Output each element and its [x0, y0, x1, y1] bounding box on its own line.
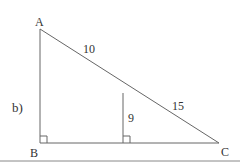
measure-10: 10 [83, 43, 95, 55]
vertex-label-b: B [30, 147, 38, 159]
vertex-label-c: C [221, 146, 229, 158]
triangle-abc [40, 29, 219, 143]
right-angle-marker-b [40, 136, 47, 143]
measure-15: 15 [172, 100, 184, 112]
right-angle-marker-inner [123, 136, 130, 143]
vertex-label-a: A [35, 16, 44, 28]
measure-9: 9 [128, 112, 134, 124]
part-label: b) [12, 102, 23, 114]
